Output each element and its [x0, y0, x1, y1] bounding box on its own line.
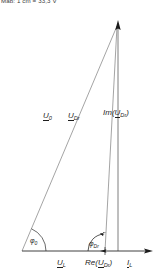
u0-phasor-line: [22, 26, 117, 251]
label-ul-subscript: L: [63, 262, 66, 268]
label-phidr-symbol: φ: [89, 240, 94, 247]
label-phidr-subscript: Dr: [94, 243, 99, 249]
label-u0-symbol: U: [43, 111, 49, 121]
label-phi0-subscript: 0: [35, 240, 38, 246]
label-re-symbol: U: [98, 258, 104, 268]
label-udr-symbol: U: [68, 111, 74, 121]
label-im-subscript: Dr: [120, 112, 126, 118]
label-phidr: φDr: [89, 240, 99, 247]
label-u0: U0: [43, 111, 52, 120]
label-ul: UL: [57, 258, 66, 267]
label-udr-subscript: Dr: [74, 115, 80, 121]
label-im-prefix: Im(: [103, 108, 115, 117]
label-il: IL: [127, 258, 132, 267]
label-u0-subscript: 0: [49, 115, 52, 121]
label-ul-symbol: U: [57, 258, 63, 268]
label-il-subscript: L: [129, 262, 132, 268]
label-re-udr: Re(UDr): [85, 258, 112, 267]
label-re-subscript: Dr: [104, 262, 110, 268]
label-im-udr: Im(UDr): [103, 108, 129, 117]
udr-phasor-line: [105, 26, 117, 251]
phasor-diagram-figure: Mab: 1 cm = 33,3 V U0 UDr Im(UDr): [0, 0, 157, 279]
label-re-prefix: Re(: [85, 258, 98, 267]
label-phi0-symbol: φ: [30, 237, 35, 244]
diagram-canvas: [0, 0, 157, 279]
label-im-suffix: ): [126, 108, 129, 117]
label-phi0: φ0: [30, 237, 37, 244]
label-udr: UDr: [68, 111, 80, 120]
